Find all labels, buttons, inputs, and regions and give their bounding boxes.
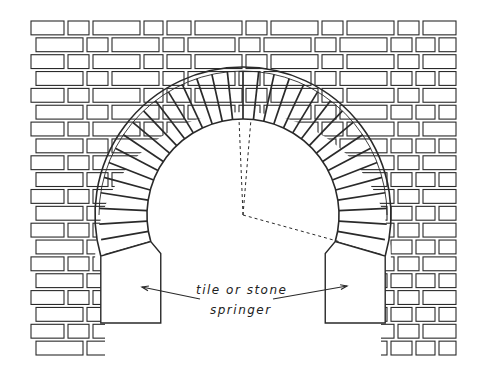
brick (31, 21, 64, 35)
voussoir-joint (133, 122, 170, 153)
brick (398, 122, 419, 136)
brick (188, 240, 235, 254)
brick (163, 240, 184, 254)
brick (163, 72, 184, 86)
brick (87, 72, 108, 86)
brick (167, 223, 191, 237)
voussoir-joint (338, 231, 385, 239)
brick (144, 190, 163, 204)
brick (167, 324, 191, 338)
brick (398, 324, 419, 338)
brick (31, 257, 64, 271)
voussoir-joint (264, 74, 274, 121)
brick (31, 291, 64, 305)
brick (87, 139, 108, 153)
brick (246, 122, 267, 136)
brick (347, 190, 394, 204)
brick (31, 88, 64, 102)
voussoir-joint (253, 72, 258, 120)
voussoir-joint (336, 177, 382, 190)
voussoir-joint (301, 101, 330, 139)
brick (398, 291, 419, 305)
brick (423, 21, 456, 35)
brick (188, 173, 235, 187)
brick (68, 324, 89, 338)
brick (87, 38, 108, 52)
voussoir-joint (293, 92, 318, 133)
brick (439, 173, 456, 187)
brick (391, 307, 412, 321)
brick (68, 190, 89, 204)
brick (68, 156, 89, 170)
brick (239, 240, 260, 254)
brick (322, 324, 343, 338)
brick (264, 105, 311, 119)
brick (439, 72, 456, 86)
brick (391, 139, 412, 153)
voussoir-joint (339, 208, 387, 210)
brick (423, 223, 456, 237)
brick (68, 257, 89, 271)
brick (391, 240, 412, 254)
brick (239, 38, 260, 52)
brick (416, 38, 435, 52)
brick (439, 274, 456, 288)
brick (271, 55, 318, 69)
brick (68, 21, 89, 35)
brick (416, 206, 435, 220)
brick (36, 206, 83, 220)
brick (391, 72, 412, 86)
brick (264, 341, 311, 355)
brick (271, 324, 318, 338)
brick (423, 190, 456, 204)
brick (322, 55, 343, 69)
brick (68, 55, 89, 69)
brick (68, 223, 89, 237)
brick (188, 139, 235, 153)
brick (315, 72, 336, 86)
brick (144, 324, 163, 338)
brick (264, 173, 311, 187)
brick (423, 122, 456, 136)
brick (93, 223, 140, 237)
brick (398, 21, 419, 35)
left-springer (101, 242, 161, 323)
brick (68, 88, 89, 102)
brick (36, 274, 83, 288)
voussoir-joint (182, 84, 202, 128)
brick (423, 88, 456, 102)
brick (340, 72, 387, 86)
brick (31, 122, 64, 136)
brick (416, 240, 435, 254)
brick (271, 21, 318, 35)
voussoir-joint (212, 74, 222, 121)
brick (439, 139, 456, 153)
brick (246, 324, 267, 338)
brick (87, 341, 108, 355)
brick (391, 173, 412, 187)
brick (31, 156, 64, 170)
brick (322, 190, 343, 204)
brick (315, 341, 336, 355)
brick (246, 223, 267, 237)
brick (439, 105, 456, 119)
brick (416, 341, 435, 355)
voussoir-joint (104, 177, 150, 190)
voussoir-joint (101, 193, 148, 200)
brick (36, 173, 83, 187)
brick (416, 307, 435, 321)
brick (93, 122, 140, 136)
brick (31, 223, 64, 237)
brick (439, 206, 456, 220)
brick (163, 341, 184, 355)
brick (246, 190, 267, 204)
brick (271, 223, 318, 237)
brick (423, 291, 456, 305)
brick (439, 240, 456, 254)
brick (340, 341, 387, 355)
brick (391, 274, 412, 288)
brick (246, 21, 267, 35)
brick (271, 257, 318, 271)
brick (239, 341, 260, 355)
brick (36, 307, 83, 321)
